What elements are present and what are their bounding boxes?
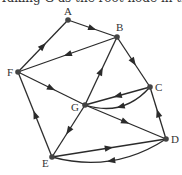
node-E bbox=[49, 154, 55, 160]
node-G bbox=[82, 102, 88, 108]
arrowhead-icon bbox=[116, 102, 125, 108]
arrowhead-icon bbox=[129, 57, 136, 66]
node-label-E: E bbox=[42, 157, 49, 169]
directed-graph-diagram: ABCDEFG bbox=[0, 0, 182, 175]
arrowhead-icon bbox=[33, 111, 39, 120]
node-B bbox=[114, 34, 120, 40]
arrowhead-icon bbox=[120, 117, 129, 123]
node-label-B: B bbox=[116, 21, 123, 33]
node-label-G: G bbox=[71, 101, 79, 113]
edges-group bbox=[18, 20, 166, 163]
arrowhead-icon bbox=[113, 92, 122, 98]
node-label-C: C bbox=[155, 81, 162, 93]
arrowhead-icon bbox=[66, 126, 73, 135]
node-D bbox=[163, 136, 169, 142]
node-label-F: F bbox=[7, 66, 13, 78]
node-label-A: A bbox=[64, 5, 72, 17]
node-F bbox=[15, 69, 21, 75]
arrowhead-icon bbox=[96, 67, 102, 76]
arrowhead-icon bbox=[156, 109, 162, 118]
arrowhead-icon bbox=[46, 84, 55, 91]
node-C bbox=[147, 84, 153, 90]
arrowhead-icon bbox=[64, 50, 73, 56]
node-A bbox=[65, 17, 71, 23]
arrowhead-icon bbox=[107, 157, 116, 163]
edge-D-to-E-curved bbox=[52, 139, 166, 162]
arrowhead-icon bbox=[87, 24, 96, 30]
arrowhead-icon bbox=[104, 146, 113, 152]
node-label-D: D bbox=[171, 133, 179, 145]
